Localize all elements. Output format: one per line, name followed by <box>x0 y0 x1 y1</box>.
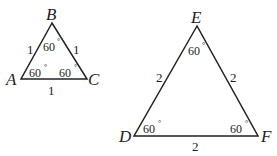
angle-label-b: 60 <box>43 40 55 54</box>
vertex-label-f: F <box>260 127 272 146</box>
vertex-label-c: C <box>88 70 100 89</box>
vertex-label-b: B <box>46 5 57 24</box>
angle-degree-e: ° <box>202 41 205 50</box>
side-label-bc: 1 <box>73 42 80 57</box>
side-label-ab: 1 <box>27 42 34 57</box>
side-label-df: 2 <box>192 139 199 154</box>
side-label-ac: 1 <box>48 83 55 98</box>
angle-degree-d: ° <box>158 119 161 128</box>
triangle-def-outline <box>134 26 258 136</box>
angle-degree-b: ° <box>57 37 60 46</box>
angle-label-c: 60 <box>59 66 71 80</box>
angle-label-d: 60 <box>143 122 155 136</box>
angle-degree-f: ° <box>245 119 248 128</box>
side-label-de: 2 <box>156 70 163 85</box>
vertex-label-a: A <box>5 70 17 89</box>
triangle-def: E D F 2 2 2 60 ° 60 ° 60 ° <box>118 8 272 154</box>
triangle-abc: B A C 1 1 1 60 ° 60 ° 60 ° <box>5 5 100 98</box>
angle-degree-a: ° <box>44 63 47 72</box>
diagram-canvas: B A C 1 1 1 60 ° 60 ° 60 ° E D F 2 2 2 6… <box>0 0 277 156</box>
angle-label-a: 60 <box>29 66 41 80</box>
side-label-ef: 2 <box>230 70 237 85</box>
angle-label-e: 60 <box>188 44 200 58</box>
angle-degree-c: ° <box>74 63 77 72</box>
vertex-label-d: D <box>118 127 132 146</box>
vertex-label-e: E <box>190 8 202 27</box>
angle-label-f: 60 <box>230 122 242 136</box>
